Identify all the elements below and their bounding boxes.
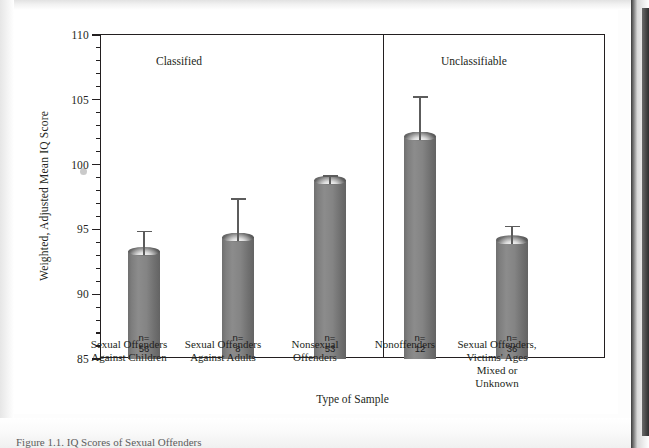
y-tick-major <box>92 294 101 295</box>
figure-card: Weighted, Adjusted Mean IQ Score 8590951… <box>14 10 618 414</box>
y-tick-minor <box>96 177 101 178</box>
y-tick-minor <box>96 255 101 256</box>
y-tick-major <box>92 99 101 100</box>
error-bar-cap <box>231 198 246 200</box>
y-axis-ticks: 859095100105110 <box>101 35 604 357</box>
y-tick-minor <box>96 60 101 61</box>
y-tick-minor <box>96 242 101 243</box>
error-bar-stem <box>419 96 421 140</box>
error-bar-stem <box>237 198 239 241</box>
panel-label: Unclassifiable <box>441 55 507 67</box>
y-tick-minor <box>96 332 101 333</box>
y-tick-label: 95 <box>77 223 89 235</box>
panel-divider <box>383 34 384 358</box>
bar: n= 53 <box>314 180 346 359</box>
y-tick-major <box>92 229 101 230</box>
y-tick-minor <box>96 125 101 126</box>
x-axis-category-label: Sexual Offenders, Victims' Ages Mixed or… <box>437 338 557 390</box>
y-tick-minor <box>96 268 101 269</box>
x-axis-title: Type of Sample <box>100 393 605 405</box>
panel-label: Classified <box>156 55 202 67</box>
scanned-page: Weighted, Adjusted Mean IQ Score 8590951… <box>0 0 649 448</box>
y-tick-label: 90 <box>77 288 89 300</box>
y-tick-minor <box>96 203 101 204</box>
y-tick-minor <box>96 216 101 217</box>
y-tick-label: 105 <box>71 94 89 106</box>
y-tick-minor <box>96 281 101 282</box>
page-gutter-shadow <box>642 8 649 436</box>
error-bar-cap <box>323 175 338 177</box>
scan-edge-top <box>0 0 649 10</box>
error-bar-stem <box>143 231 145 256</box>
y-tick-minor <box>96 151 101 152</box>
y-tick-minor <box>96 112 101 113</box>
y-tick-minor <box>96 138 101 139</box>
y-tick-major <box>92 34 101 35</box>
y-tick-minor <box>96 73 101 74</box>
y-tick-minor <box>96 190 101 191</box>
y-tick-major <box>92 164 101 165</box>
figure-caption: Figure 1.1. IQ Scores of Sexual Offender… <box>16 436 576 448</box>
error-bar-cap <box>137 231 152 233</box>
error-bar-cap <box>505 226 520 228</box>
error-bar-cap <box>413 96 428 98</box>
y-tick-minor <box>96 320 101 321</box>
y-tick-minor <box>96 307 101 308</box>
bar: n= 12 <box>404 136 436 359</box>
y-tick-minor <box>96 86 101 87</box>
y-tick-label: 100 <box>71 159 89 171</box>
y-tick-minor <box>96 47 101 48</box>
y-axis-title: Weighted, Adjusted Mean IQ Score <box>38 111 50 281</box>
error-bar-stem <box>511 226 513 244</box>
plot-area: 859095100105110 n= 56n= 8n= 53n= 12n= 36… <box>100 34 605 358</box>
y-tick-label: 110 <box>72 29 89 41</box>
scan-edge-left <box>0 0 14 448</box>
